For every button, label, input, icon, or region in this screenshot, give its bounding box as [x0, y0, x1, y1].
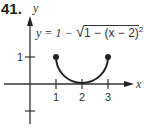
x-axis-label: x [135, 77, 142, 91]
x-tick-label: 3 [105, 91, 111, 103]
equation-label: y = 1 − √1 − (x − 2)2 [36, 23, 143, 41]
y-axis-arrow-icon [27, 16, 33, 26]
equation-exponent: 2 [139, 25, 143, 34]
graph: y x 1 2 3 1 [0, 0, 144, 128]
x-axis-arrow-icon [124, 81, 134, 87]
x-tick-label: 1 [53, 91, 59, 103]
y-tick-label: 1 [17, 51, 23, 63]
equation-radicand: 1 − (x − 2) [84, 25, 139, 40]
y-axis-label: y [32, 1, 39, 15]
equation-lhs: y = 1 − [36, 26, 73, 40]
sqrt-icon: √ [76, 23, 84, 40]
endpoint-dot [53, 54, 59, 60]
endpoint-dot [105, 54, 111, 60]
x-tick-label: 2 [79, 91, 85, 103]
